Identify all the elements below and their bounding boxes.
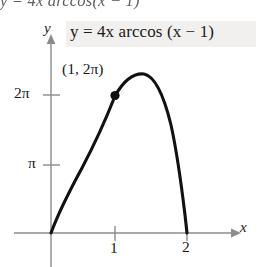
x-axis-label: x — [240, 219, 247, 236]
plot-canvas — [0, 0, 260, 267]
x-tick-label-2: 2 — [182, 238, 190, 256]
x-tick-label-1: 1 — [110, 239, 118, 257]
point-marker-dot — [110, 91, 119, 100]
y-tick-label-2pi: 2π — [14, 84, 30, 102]
y-axis-label: y — [44, 20, 51, 37]
function-graph-figure: y = 4x arccos(x − 1) y = 4x arccos (x − … — [0, 0, 260, 267]
y-tick-label-pi: π — [28, 154, 36, 172]
point-annotation-label: (1, 2π) — [62, 60, 103, 78]
